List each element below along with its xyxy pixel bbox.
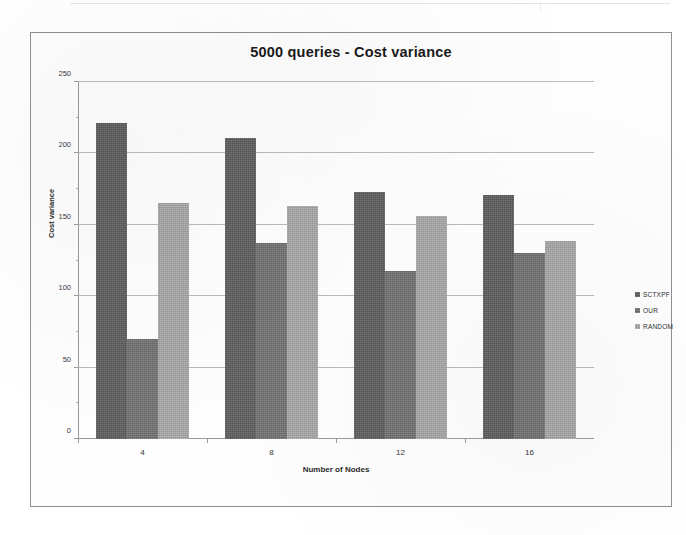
bar-group: 16 [465, 82, 594, 439]
bar-sctxpf-8[interactable] [225, 138, 256, 439]
bar-random-8[interactable] [287, 206, 318, 439]
legend-item-random[interactable]: RANDOM [635, 323, 686, 330]
y-axis-tick-label: 250 [58, 69, 71, 78]
bars-layer: 481216 [78, 82, 594, 439]
x-axis-tick-mark [207, 439, 208, 443]
scanned-page-edge-tick [540, 3, 541, 12]
x-axis-tick-label: 4 [140, 448, 144, 457]
bar-random-16[interactable] [545, 241, 576, 439]
legend-swatch-icon [635, 308, 640, 313]
legend-item-sctxpf[interactable]: SCTXPF [635, 291, 686, 298]
bar-our-8[interactable] [256, 243, 287, 439]
legend-swatch-icon [635, 292, 640, 297]
bar-our-12[interactable] [385, 271, 416, 440]
x-axis-tick-label: 8 [269, 448, 273, 457]
bar-group: 12 [336, 82, 465, 439]
legend-label: SCTXPF [643, 291, 670, 298]
bar-random-12[interactable] [416, 216, 447, 439]
x-axis-tick-label: 16 [525, 448, 534, 457]
bar-random-4[interactable] [158, 203, 189, 439]
legend-label: OUR [643, 307, 658, 314]
bar-sctxpf-4[interactable] [96, 123, 127, 439]
y-axis-title: Cost variance [47, 189, 56, 238]
bar-group: 4 [78, 82, 207, 439]
x-axis-title: Number of Nodes [78, 465, 594, 474]
scanned-page-edge [70, 3, 670, 4]
bar-group: 8 [207, 82, 336, 439]
chart-frame: 5000 queries - Cost variance Cost varian… [30, 32, 672, 507]
x-axis-tick-mark [336, 439, 337, 443]
x-axis-tick-mark [465, 439, 466, 443]
x-axis-tick-mark [78, 439, 79, 443]
y-axis-tick-label: 150 [58, 211, 71, 220]
x-axis-tick-label: 12 [396, 448, 405, 457]
legend-label: RANDOM [643, 323, 673, 330]
y-axis-tick-label: 0 [67, 426, 71, 435]
bar-sctxpf-16[interactable] [483, 195, 514, 439]
bar-sctxpf-12[interactable] [354, 192, 385, 439]
legend-item-our[interactable]: OUR [635, 307, 686, 314]
bar-our-4[interactable] [127, 339, 158, 439]
y-axis-tick-label: 100 [58, 283, 71, 292]
chart-title: 5000 queries - Cost variance [31, 44, 671, 60]
legend-swatch-icon [635, 324, 640, 329]
chart-legend: SCTXPFOURRANDOM [635, 291, 686, 339]
plot-area: 050100150200250 481216 [78, 82, 594, 439]
bar-our-16[interactable] [514, 253, 545, 439]
y-axis-tick-label: 50 [63, 354, 71, 363]
y-axis-tick-label: 200 [58, 140, 71, 149]
